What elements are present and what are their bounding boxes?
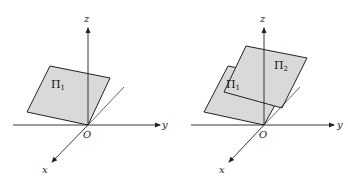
plane-pi1 [27, 66, 110, 125]
origin-label: O [259, 129, 267, 140]
y-axis-label: y [161, 119, 168, 130]
origin-label: O [83, 129, 91, 140]
right-diagram: z y x O Π1 Π2 [191, 13, 343, 175]
z-axis-label: z [83, 13, 90, 24]
x-axis-label: x [219, 164, 225, 175]
x-axis-label: x [42, 164, 48, 175]
left-diagram: z y x O Π1 [13, 13, 168, 175]
y-axis-label: y [336, 119, 343, 130]
z-axis-label: z [259, 13, 266, 24]
diagram-canvas: z y x O Π1 z y x O Π1 Π2 [0, 0, 348, 187]
